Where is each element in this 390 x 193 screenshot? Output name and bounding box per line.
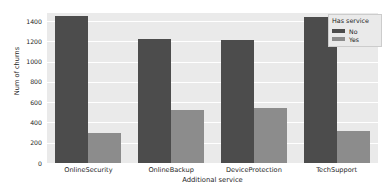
bar-deviceprotection-yes [254,108,287,163]
bar-chart-figure: 0200400600800100012001400 Num of churns … [0,0,390,193]
y-tick-label: 400 [20,119,42,126]
x-axis-label: Additional service [47,176,378,184]
legend-entry-yes: Yes [332,35,378,43]
y-tick-label: 0 [20,160,42,167]
legend-label-no: No [349,28,357,35]
bar-deviceprotection-no [221,40,254,163]
legend-entries: NoYes [332,27,378,43]
legend-title: Has service [332,17,378,25]
bar-onlinebackup-yes [171,110,204,163]
legend-swatch-no [332,29,345,33]
x-tick-label-deviceprotection: DeviceProtection [214,166,294,174]
bar-techsupport-yes [337,131,370,163]
legend-entry-no: No [332,27,378,35]
x-tick-label-onlinebackup: OnlineBackup [131,166,211,174]
bar-onlinebackup-no [138,39,171,163]
y-tick-label: 1400 [20,18,42,25]
y-axis-label: Num of churns [13,26,21,116]
y-tick-label: 1000 [20,58,42,65]
legend: Has service NoYes [328,14,382,47]
legend-label-yes: Yes [349,36,359,43]
y-tick-label: 1200 [20,38,42,45]
bar-onlinesecurity-no [55,16,88,163]
x-tick-label-onlinesecurity: OnlineSecurity [48,166,128,174]
legend-swatch-yes [332,37,345,41]
y-tick-label: 200 [20,139,42,146]
y-tick-label: 600 [20,99,42,106]
y-tick-label: 800 [20,78,42,85]
x-tick-label-techsupport: TechSupport [297,166,377,174]
bar-onlinesecurity-yes [88,133,121,163]
